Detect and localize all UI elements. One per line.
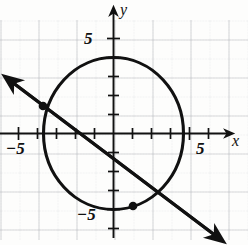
x-tick-label-positive: 5 [196, 140, 205, 157]
x-tick-label-negative: −5 [6, 140, 25, 157]
y-tick-label-positive: 5 [84, 30, 93, 47]
intersection-point-lower-right [129, 202, 138, 211]
graph-figure: y x 5 −5 5 −5 [0, 0, 248, 245]
intersection-point-upper-left [39, 102, 48, 111]
y-axis-label: y [120, 2, 127, 18]
coordinate-plane [0, 0, 248, 245]
y-tick-label-negative: −5 [77, 206, 96, 223]
x-axis-label: x [232, 133, 239, 149]
